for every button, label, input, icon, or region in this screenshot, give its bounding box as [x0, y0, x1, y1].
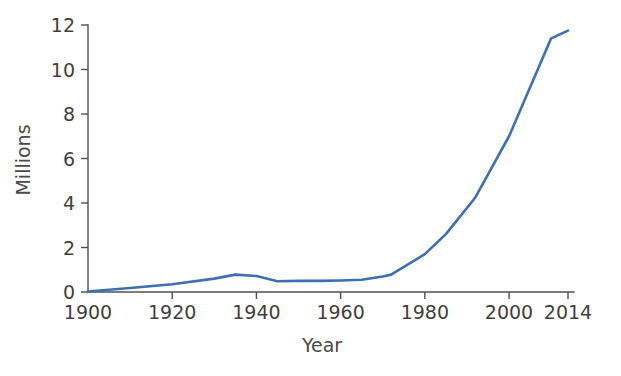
line-chart: 024681012 1900192019401960198020002014 Y… [0, 0, 621, 376]
x-tick-label-1980: 1980 [401, 301, 449, 323]
chart-svg: 024681012 1900192019401960198020002014 Y… [0, 0, 621, 376]
x-tick-label-2000: 2000 [485, 301, 533, 323]
y-tick-label-10: 10 [51, 59, 75, 81]
y-tick-label-0: 0 [63, 281, 75, 303]
x-tick-label-2014: 2014 [544, 301, 592, 323]
y-axis-ticks [81, 25, 88, 292]
y-tick-label-4: 4 [63, 192, 75, 214]
x-tick-label-1920: 1920 [148, 301, 196, 323]
x-tick-label-1960: 1960 [316, 301, 364, 323]
x-tick-label-1940: 1940 [232, 301, 280, 323]
y-tick-label-12: 12 [51, 14, 75, 36]
x-axis-title: Year [301, 334, 342, 356]
y-axis-tick-labels: 024681012 [51, 14, 75, 303]
y-tick-label-2: 2 [63, 237, 75, 259]
data-series-line [88, 31, 568, 292]
x-tick-label-1900: 1900 [64, 301, 112, 323]
x-axis-ticks [172, 292, 568, 299]
y-tick-label-6: 6 [63, 148, 75, 170]
y-axis-title: Millions [12, 124, 34, 195]
y-tick-label-8: 8 [63, 103, 75, 125]
x-axis-tick-labels: 1900192019401960198020002014 [64, 301, 592, 323]
